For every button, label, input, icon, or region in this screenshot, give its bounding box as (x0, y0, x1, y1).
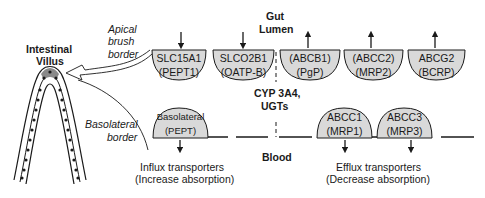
apical-arrows (181, 32, 435, 48)
influx-label-line2: (Increase absorption) (135, 173, 234, 185)
apical-label-line2: brush (108, 35, 134, 47)
basolateral-label-line2: border (107, 131, 137, 143)
apical-label-line1: Apical (108, 23, 137, 35)
influx-label-line1: Influx transporters (140, 161, 224, 173)
efflux-label-line1: Efflux transporters (336, 161, 421, 173)
cyp-label-line1: CYP 3A4, (254, 87, 301, 99)
blood-label: Blood (262, 151, 292, 163)
transporter-slc15a1: SLC15A1(PEPT1) (152, 51, 206, 79)
transporter-abcc2: (ABCC2)(MRP2) (344, 51, 403, 79)
villus-title-line2: Villus (36, 55, 64, 67)
basolateral-arrows (180, 140, 411, 150)
gut-lumen-line2: Lumen (259, 23, 293, 35)
cyp-label-line2: UGTs (261, 100, 288, 112)
transporter-abcg2: ABCG2(BCRP) (408, 51, 465, 79)
efflux-label-line2: (Decrease absorption) (326, 173, 430, 185)
villus-illustration (14, 67, 86, 185)
transporter-abcb1: (ABCB1)(PgP) (280, 51, 340, 79)
transporter-abcc1: ABCC1(MRP1) (317, 110, 372, 138)
basolateral-label-line1: Basolateral (85, 118, 138, 130)
villus-title-line1: Intestinal (26, 43, 72, 55)
transporter-basolateral-pept: Basolateral(PEPT) (153, 110, 208, 138)
apical-label-line3: border (108, 48, 138, 60)
transporter-abcc3: ABCC3(MRP3) (377, 110, 432, 138)
transporter-slco2b1: SLCO2B1(OATP-B) (213, 51, 274, 79)
gut-lumen-line1: Gut (266, 10, 284, 22)
